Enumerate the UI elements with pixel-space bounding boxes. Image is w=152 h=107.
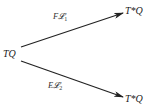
node-source-label: TQ [3,48,16,59]
node-target-top-label: T*Q [125,5,143,16]
node-target-top: T*Q [125,6,143,16]
node-target-bottom: T*Q [125,94,143,104]
edge-label-top-main: F𝓛 [53,11,64,21]
edge-label-top: F𝓛1 [53,12,67,22]
edge-label-bottom-subscript: 2 [59,85,62,91]
edge-label-bottom: E𝓛2 [48,81,62,91]
arrows-layer [0,0,152,107]
edge-label-bottom-main: E𝓛 [48,80,59,90]
node-target-bottom-label: T*Q [125,93,143,104]
arrow-top [21,13,123,47]
node-source: TQ [3,49,16,59]
diagram-canvas: TQ T*Q T*Q F𝓛1 E𝓛2 [0,0,152,107]
arrow-bottom [21,61,123,97]
edge-label-top-subscript: 1 [64,16,67,22]
